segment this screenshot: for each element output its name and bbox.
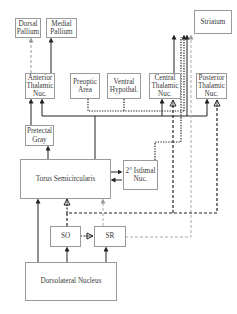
node-posterior-thalamic: Posterior Thalamic Nuc. [196, 73, 227, 99]
node-sr: SR [94, 226, 126, 247]
node-label: 2° Isthmal Nuc. [126, 167, 156, 183]
node-label: Torus Semicircularis [36, 175, 96, 183]
node-label: SO [61, 232, 70, 240]
node-striatum: Striatum [194, 10, 232, 34]
node-label: Striatum [201, 18, 226, 26]
node-torus-semicircularis: Torus Semicircularis [20, 159, 111, 199]
node-label: Medial Pallium [50, 20, 72, 36]
node-central-thalamic: Central Thalamic Nuc. [149, 73, 181, 99]
edge-preoptic-to-striatum [88, 99, 184, 111]
node-so: SO [50, 226, 81, 247]
node-dorsal-pallium: Dorsal Pallium [15, 18, 41, 38]
node-ventral-hypothal: Ventral Hypothal. [107, 73, 141, 99]
edge-bus-to-central [95, 101, 162, 116]
node-label: Preoptic Area [73, 78, 97, 94]
edge-sr-to-striatum [125, 37, 191, 237]
node-preoptic-area: Preoptic Area [70, 73, 100, 99]
node-pretectal-gray: Pretectal Gray [25, 125, 54, 146]
node-medial-pallium: Medial Pallium [46, 18, 77, 38]
node-isthmal-nuc: 2° Isthmal Nuc. [123, 160, 158, 190]
node-label: Dorsolateral Nucleus [41, 277, 102, 285]
node-label: Dorsal Pallium [17, 20, 39, 36]
node-label: Pretectal Gray [27, 127, 52, 143]
node-label: Central Thalamic Nuc. [151, 74, 178, 99]
node-label: Ventral Hypothal. [110, 78, 139, 94]
node-label: Anterior Thalamic Nuc. [26, 74, 53, 99]
edge-bus-to-posterior [162, 101, 207, 116]
node-dorsolateral-nucleus: Dorsolateral Nucleus [25, 262, 117, 301]
node-anterior-thalamic: Anterior Thalamic Nuc. [25, 73, 55, 99]
node-label: Posterior Thalamic Nuc. [198, 74, 225, 99]
node-label: SR [106, 232, 115, 240]
